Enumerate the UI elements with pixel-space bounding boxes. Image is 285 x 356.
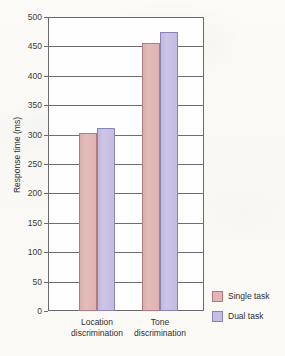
gridline-200	[48, 193, 204, 194]
legend-item-dual-task: Dual task	[212, 306, 270, 326]
bar-tone-dual	[160, 32, 178, 311]
y-tick-350	[44, 105, 48, 106]
gridline-400	[48, 76, 204, 77]
bar-chart: 500450400350300250200150100500 Locationd…	[0, 0, 285, 356]
y-axis-title: Response time (ms)	[12, 100, 22, 210]
y-tick-label-50: 50	[2, 278, 42, 287]
y-tick-400	[44, 76, 48, 77]
y-tick-label-500: 500	[2, 13, 42, 22]
legend-swatch-single-task	[212, 291, 223, 302]
legend-label-dual-task: Dual task	[228, 311, 263, 321]
legend-swatch-dual-task	[212, 311, 223, 322]
y-tick-300	[44, 135, 48, 136]
legend-label-single-task: Single task	[228, 291, 270, 301]
y-tick-200	[44, 193, 48, 194]
y-tick-label-450: 450	[2, 42, 42, 51]
bar-location-single	[79, 133, 97, 311]
y-tick-50	[44, 282, 48, 283]
y-tick-500	[44, 17, 48, 18]
gridline-450	[48, 46, 204, 47]
y-tick-label-400: 400	[2, 72, 42, 81]
chart-legend: Single task Dual task	[212, 286, 270, 326]
x-label-tone-discrimination: Tonediscrimination	[115, 317, 205, 339]
bar-tone-single	[142, 43, 160, 311]
y-tick-label-350: 350	[2, 101, 42, 110]
gridline-250	[48, 164, 204, 165]
y-tick-label-300: 300	[2, 131, 42, 140]
legend-item-single-task: Single task	[212, 286, 270, 306]
y-tick-100	[44, 252, 48, 253]
y-tick-250	[44, 164, 48, 165]
y-tick-450	[44, 46, 48, 47]
bar-location-dual	[97, 128, 115, 311]
gridline-50	[48, 282, 204, 283]
y-tick-label-200: 200	[2, 189, 42, 198]
y-tick-150	[44, 223, 48, 224]
gridline-150	[48, 223, 204, 224]
y-tick-0	[44, 311, 48, 312]
y-tick-label-100: 100	[2, 248, 42, 257]
y-tick-label-150: 150	[2, 219, 42, 228]
y-tick-label-0: 0	[2, 307, 42, 316]
gridline-350	[48, 105, 204, 106]
gridline-300	[48, 135, 204, 136]
gridline-100	[48, 252, 204, 253]
y-tick-label-250: 250	[2, 160, 42, 169]
